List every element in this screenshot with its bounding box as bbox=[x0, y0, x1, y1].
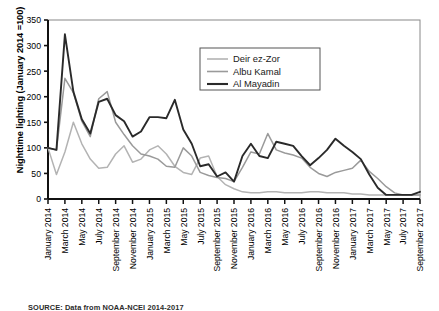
x-tick-label: January 2014 bbox=[43, 208, 53, 260]
y-tick-label: 350 bbox=[27, 15, 42, 25]
x-tick-label: November 2016 bbox=[331, 208, 341, 269]
x-tick-label: January 2015 bbox=[145, 208, 155, 260]
x-axis-ticks: January 2014March 2014May 2014July 2014S… bbox=[43, 199, 425, 272]
x-tick-label: September 2015 bbox=[212, 208, 222, 272]
x-tick-label: July 2014 bbox=[94, 208, 104, 245]
series-line-deir-ez-zor bbox=[48, 122, 420, 195]
x-tick-label: May 2014 bbox=[77, 208, 87, 246]
legend-label-al-mayadin: Al Mayadin bbox=[233, 78, 279, 89]
plot-frame bbox=[48, 20, 420, 199]
line-chart: 050100150200250300350 January 2014March … bbox=[0, 0, 439, 311]
x-tick-label: January 2016 bbox=[246, 208, 256, 260]
x-tick-label: September 2017 bbox=[415, 208, 425, 272]
x-tick-label: May 2015 bbox=[179, 208, 189, 246]
y-tick-label: 250 bbox=[27, 67, 42, 77]
x-tick-label: September 2016 bbox=[314, 208, 324, 272]
y-axis-ticks: 050100150200250300350 bbox=[27, 15, 49, 204]
y-tick-label: 300 bbox=[27, 41, 42, 51]
legend-label-albu-kamal: Albu Kamal bbox=[233, 66, 281, 77]
x-tick-label: November 2014 bbox=[128, 208, 138, 269]
x-tick-label: July 2017 bbox=[398, 208, 408, 245]
x-tick-label: January 2017 bbox=[348, 208, 358, 260]
x-tick-label: May 2016 bbox=[280, 208, 290, 246]
y-tick-label: 150 bbox=[27, 118, 42, 128]
x-tick-label: September 2014 bbox=[111, 208, 121, 272]
x-tick-label: March 2017 bbox=[365, 208, 375, 254]
x-tick-label: July 2016 bbox=[297, 208, 307, 245]
y-tick-label: 0 bbox=[36, 194, 41, 204]
y-axis-label-wrapper: Nighttime lighting (January 2014 =100) bbox=[0, 0, 20, 210]
figure-container: Nighttime lighting (January 2014 =100) 0… bbox=[0, 0, 439, 311]
x-tick-label: November 2015 bbox=[229, 208, 239, 269]
y-tick-label: 100 bbox=[27, 143, 42, 153]
x-tick-label: March 2016 bbox=[263, 208, 273, 254]
legend-label-deir-ez-zor: Deir ez-Zor bbox=[233, 53, 280, 64]
y-tick-label: 50 bbox=[31, 169, 41, 179]
y-tick-label: 200 bbox=[27, 92, 42, 102]
x-tick-label: March 2014 bbox=[60, 208, 70, 254]
x-tick-label: March 2015 bbox=[162, 208, 172, 254]
y-axis-label: Nighttime lighting (January 2014 =100) bbox=[15, 0, 25, 190]
x-tick-label: July 2015 bbox=[196, 208, 206, 245]
x-tick-label: May 2017 bbox=[382, 208, 392, 246]
series-line-albu-kamal bbox=[48, 78, 420, 195]
source-note: SOURCE: Data from NOAA-NCEI 2014-2017 bbox=[28, 303, 184, 311]
chart-legend: Deir ez-ZorAlbu KamalAl Mayadin bbox=[200, 48, 320, 90]
